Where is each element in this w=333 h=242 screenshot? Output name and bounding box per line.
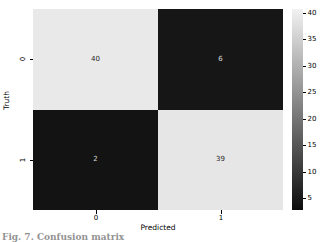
- y-tick-label-0: 0: [19, 54, 27, 64]
- colorbar-tick-label-25: 25: [308, 88, 317, 96]
- y-axis-label: Truth: [2, 91, 11, 110]
- colorbar: 40 35 30 25 20 15 10 5: [292, 9, 303, 210]
- colorbar-tick-label-20: 20: [308, 115, 317, 123]
- colorbar-tick-label-10: 10: [308, 168, 317, 176]
- matrix-cell-value: 6: [218, 56, 223, 63]
- x-tick-label-0: 0: [94, 214, 98, 222]
- x-tick-label-1: 1: [219, 214, 223, 222]
- matrix-cell-value: 2: [93, 156, 98, 163]
- x-tick-mark-0: [96, 210, 97, 214]
- y-tick-mark-0: [30, 59, 34, 60]
- matrix-cell-value: 40: [91, 56, 100, 63]
- colorbar-tick-label-15: 15: [308, 141, 317, 149]
- colorbar-tick-mark-30: [303, 66, 306, 67]
- colorbar-gradient: [292, 9, 303, 210]
- y-tick-label-1: 1: [19, 155, 27, 165]
- colorbar-tick-mark-15: [303, 145, 306, 146]
- colorbar-tick-mark-40: [303, 13, 306, 14]
- x-axis-label: Predicted: [140, 223, 175, 232]
- colorbar-tick-label-5: 5: [308, 194, 312, 202]
- figure-caption: Fig. 7. Confusion matrix: [2, 232, 332, 242]
- y-tick-mark-1: [30, 160, 34, 161]
- colorbar-tick-mark-25: [303, 92, 306, 93]
- x-tick-mark-1: [221, 210, 222, 214]
- confusion-matrix-heatmap: 40 6 2 39: [33, 9, 283, 210]
- colorbar-tick-label-40: 40: [308, 9, 317, 17]
- colorbar-tick-mark-10: [303, 172, 306, 173]
- matrix-cell-value: 39: [216, 156, 225, 163]
- colorbar-tick-label-30: 30: [308, 62, 317, 70]
- matrix-cell-1-1: 39: [158, 110, 283, 211]
- colorbar-tick-mark-20: [303, 119, 306, 120]
- colorbar-tick-mark-35: [303, 39, 306, 40]
- colorbar-tick-label-35: 35: [308, 35, 317, 43]
- matrix-cell-0-1: 6: [158, 9, 283, 110]
- matrix-cell-1-0: 2: [33, 110, 158, 211]
- colorbar-tick-mark-5: [303, 198, 306, 199]
- matrix-cell-0-0: 40: [33, 9, 158, 110]
- figure-canvas: 40 6 2 39 0 1 Truth 0 1 Predicted 40 35: [0, 0, 333, 242]
